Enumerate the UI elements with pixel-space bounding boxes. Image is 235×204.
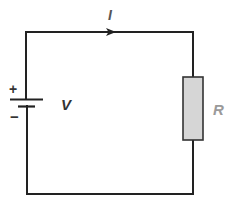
circuit-diagram: I V R + − <box>0 0 235 204</box>
circuit-wires <box>26 32 193 194</box>
battery <box>10 100 43 107</box>
resistor <box>183 77 203 140</box>
battery-negative-sign: − <box>10 108 19 125</box>
voltage-label: V <box>61 96 73 113</box>
current-label: I <box>108 7 113 23</box>
resistance-label: R <box>213 101 224 118</box>
battery-positive-sign: + <box>9 81 17 97</box>
